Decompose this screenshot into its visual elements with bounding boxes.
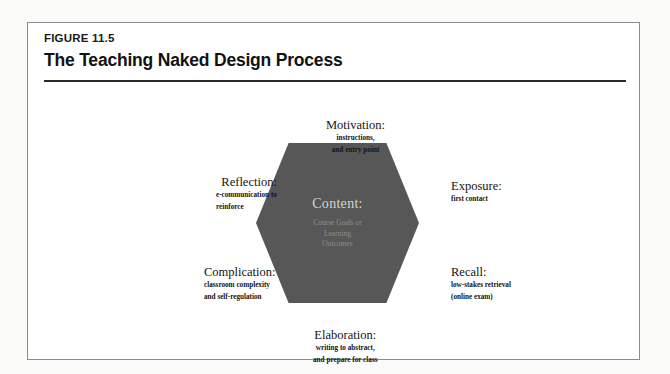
- node-exposure-sub-line-1: first contact: [451, 194, 502, 205]
- node-reflection-title: Reflection:: [216, 175, 277, 189]
- figure-title: The Teaching Naked Design Process: [44, 50, 342, 71]
- node-elaboration-title: Elaboration:: [313, 328, 378, 342]
- node-complication: Complication: classroom complexity and s…: [204, 265, 276, 303]
- node-elaboration-sub-line-2: and prepare for class: [313, 355, 378, 366]
- node-motivation-title: Motivation:: [326, 118, 385, 132]
- title-divider: [44, 80, 626, 82]
- node-motivation-sub-line-1: instructions,: [326, 133, 385, 144]
- node-elaboration-sub-line-1: writing to abstract,: [313, 343, 378, 354]
- node-recall: Recall: low-stakes retrieval (online exa…: [451, 265, 511, 303]
- node-complication-title: Complication:: [204, 265, 276, 279]
- node-reflection-sub-line-2: reinforce: [216, 202, 277, 213]
- node-recall-sub-line-1: low-stakes retrieval: [451, 280, 511, 291]
- process-diagram: Content: Course Goals or Learning Outcom…: [28, 85, 639, 359]
- node-recall-sub-line-2: (online exam): [451, 292, 511, 303]
- figure-number-label: FIGURE 11.5: [44, 32, 115, 44]
- node-recall-title: Recall:: [451, 265, 511, 279]
- node-reflection-sub-line-1: e-communication to: [216, 190, 277, 201]
- figure-frame: FIGURE 11.5 The Teaching Naked Design Pr…: [27, 22, 640, 360]
- node-motivation: Motivation: instructions, and entry poin…: [326, 118, 385, 156]
- node-elaboration: Elaboration: writing to abstract, and pr…: [313, 328, 378, 366]
- node-exposure: Exposure: first contact: [451, 179, 502, 205]
- node-complication-sub-line-1: classroom complexity: [204, 280, 276, 291]
- node-motivation-sub-line-2: and entry point: [326, 145, 385, 156]
- hexagon-shape: [256, 143, 419, 303]
- node-reflection: Reflection: e-communication to reinforce: [216, 175, 277, 213]
- node-complication-sub-line-2: and self-regulation: [204, 292, 276, 303]
- node-exposure-title: Exposure:: [451, 179, 502, 193]
